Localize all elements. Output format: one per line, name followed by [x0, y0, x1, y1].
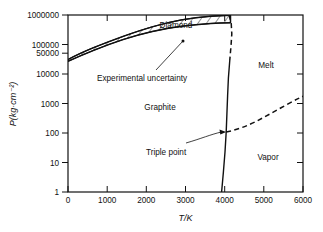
- x-tick-label-6000: 6000: [294, 196, 313, 205]
- region-label-vapor: Vapor: [257, 153, 279, 162]
- x-tick-label-5000: 5000: [255, 196, 274, 205]
- y-tick-label-1000000: 1000000: [27, 11, 59, 20]
- y-tick-label-100000: 100000: [32, 41, 60, 50]
- y-tick-label-10000: 10000: [36, 70, 59, 79]
- phase-diagram-svg: 1000000 100000 50000 10000 1000 100 10 1…: [0, 0, 323, 232]
- y-tick-label-1: 1: [54, 188, 59, 197]
- x-axis-tick-labels: 0 1000 2000 3000 4000 5000 6000: [66, 196, 313, 205]
- region-label-graphite: Graphite: [144, 103, 176, 112]
- experimental-uncertainty-anchor-dot: [182, 40, 185, 43]
- x-tick-label-0: 0: [66, 196, 71, 205]
- y-tick-label-100: 100: [45, 129, 59, 138]
- y-tick-label-1000: 1000: [41, 100, 60, 109]
- x-tick-label-2000: 2000: [137, 196, 156, 205]
- x-axis-title: T/K: [178, 213, 193, 223]
- annotation-label-experimental-uncertainty: Experimental uncertainty: [97, 74, 188, 83]
- y-axis-ticks-left: [62, 15, 68, 192]
- plot-area-background: [68, 15, 303, 192]
- x-tick-label-1000: 1000: [98, 196, 117, 205]
- y-tick-label-50000: 50000: [36, 49, 59, 58]
- y-axis-tick-labels: 1000000 100000 50000 10000 1000 100 10 1: [27, 11, 59, 197]
- y-tick-label-10: 10: [50, 159, 60, 168]
- x-tick-label-3000: 3000: [176, 196, 195, 205]
- y-axis-title: P(kg·cm⁻²): [8, 82, 18, 127]
- region-label-melt: Melt: [258, 61, 274, 70]
- x-tick-label-4000: 4000: [216, 196, 235, 205]
- carbon-phase-diagram-figure: 1000000 100000 50000 10000 1000 100 10 1…: [0, 0, 323, 232]
- region-label-diamond: Diamond: [160, 21, 193, 30]
- annotation-label-triple-point: Triple point: [146, 148, 187, 157]
